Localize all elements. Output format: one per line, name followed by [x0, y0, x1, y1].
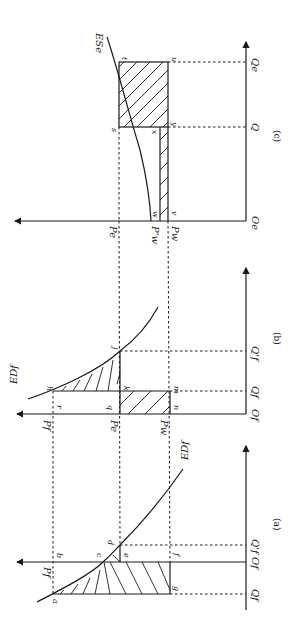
qe-label: Qe [250, 58, 261, 72]
q-label: Q [250, 123, 261, 131]
ed-label-b: EDf [8, 363, 19, 385]
pe-label-c: Pe [108, 225, 119, 238]
point-t: t [120, 57, 129, 61]
point-f: f [172, 552, 181, 558]
point-u: u [170, 57, 179, 62]
caption-c: (c) [272, 130, 282, 142]
point-a: a [51, 599, 60, 604]
point-q: q [106, 405, 115, 410]
panel-b: EDf h j k m n q r Pf Pe Pw Of Qf Q'f (b) [8, 268, 282, 436]
pe-label-b: Pe [109, 419, 120, 432]
point-b: b [55, 553, 64, 558]
caption-a: (a) [272, 518, 282, 530]
pw-prime-label: P'w [150, 225, 161, 244]
ed-curve-a [37, 469, 183, 602]
qf-prime-label-b: Q'f [250, 346, 261, 363]
qf-label-a: Qf [250, 589, 261, 603]
qf-label-b: Qf [250, 386, 261, 400]
point-s: s [110, 128, 119, 132]
origin-oe: Oe [250, 216, 261, 230]
hatch-stuy [119, 62, 168, 127]
pf-label-b: Pf [42, 419, 53, 433]
point-k: k [122, 386, 131, 391]
trade-diagram: ESe s t u x y w v Qe Q Oe Pe P'w Pw (c) [0, 0, 304, 635]
es-label: ESe [94, 32, 105, 53]
ed-label-a: EDf [179, 439, 190, 461]
pw-label-b: Pw [159, 419, 170, 436]
point-c: c [95, 553, 104, 558]
hatch-kmnq [120, 391, 170, 414]
hatch-strip [160, 132, 168, 215]
point-g: g [172, 586, 181, 591]
point-n: n [172, 405, 181, 410]
point-h: h [45, 386, 54, 391]
caption-b: (b) [272, 332, 282, 345]
point-w: w [151, 211, 160, 218]
point-y: y [170, 121, 179, 127]
point-d: d [106, 540, 115, 545]
point-j: j [111, 345, 120, 350]
point-x: x [150, 130, 159, 135]
point-e: e [122, 553, 131, 558]
origin-of-b: Of [250, 409, 261, 423]
pf-label-a: Pf [42, 566, 53, 580]
point-m: m [172, 386, 181, 394]
hatch-acfg [60, 555, 170, 594]
origin-of-a: Of [250, 557, 261, 571]
qf-prime-label-a: Q'f [250, 539, 261, 556]
panel-a: EDf a b c d e f g Pf Of Q'f Qf (a) [17, 439, 282, 610]
panel-c: ESe s t u x y w v Qe Q Oe Pe P'w Pw (c) [15, 32, 282, 244]
hatch-hjk [62, 360, 120, 391]
point-v: v [170, 211, 179, 216]
pw-label-c: Pw [170, 225, 181, 242]
point-r: r [55, 405, 64, 410]
